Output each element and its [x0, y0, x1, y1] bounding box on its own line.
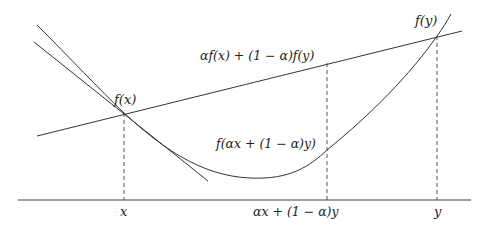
- tick-label-x: x: [120, 204, 128, 219]
- label-fy: f(y): [414, 13, 437, 28]
- label-f-mix: f(αx + (1 − α)y): [215, 136, 316, 151]
- convexity-diagram: f(x) f(y) αf(x) + (1 − α)f(y) f(αx + (1 …: [0, 0, 493, 230]
- tick-label-y: y: [433, 204, 442, 219]
- label-fx: f(x): [113, 92, 136, 107]
- tangent-line: [34, 42, 208, 181]
- tick-label-mix: αx + (1 − α)y: [253, 204, 339, 219]
- label-chord: αf(x) + (1 − α)f(y): [200, 48, 314, 63]
- convex-curve: [37, 14, 451, 178]
